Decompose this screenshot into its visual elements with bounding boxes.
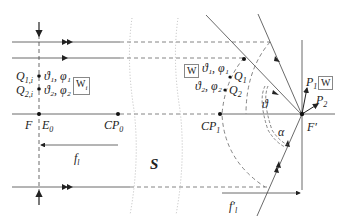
angles-2-label: ϑ₂, φ₂ — [44, 84, 71, 96]
wavefront-box-right: W — [184, 64, 199, 78]
focal-point-fprime-label: F′ — [307, 121, 317, 133]
angles-2-right-label: ϑ₂, φ₂ — [195, 80, 222, 92]
point-p1-label: P1 — [306, 76, 317, 91]
point-p2-label: P2 — [316, 94, 327, 109]
focal-length-right-label: f′l — [229, 200, 237, 215]
diagram-lines — [0, 0, 348, 224]
entrance-e0-label: E0 — [42, 119, 53, 134]
theta-angle-label: ϑ — [262, 98, 268, 110]
cp1-label: CP1 — [201, 120, 220, 135]
angles-1-right-label: ϑ₁, φ₁ — [202, 62, 229, 74]
point-q2-label: Q2 — [229, 84, 242, 99]
alpha-angle-label: α — [278, 126, 284, 138]
wavefront-box-left: Wi — [73, 77, 90, 95]
focal-length-left-label: fl — [74, 152, 80, 167]
optics-diagram: Q1,i Q2,i ϑ₁, φ₁ ϑ₂, φ₂ Wi F E0 CP0 fl S… — [0, 0, 348, 224]
point-q2i-label: Q2,i — [16, 84, 33, 99]
focal-point-f-label: F — [25, 119, 32, 131]
angles-1-label: ϑ₁, φ₁ — [44, 70, 71, 82]
wavefront-box-out: W — [318, 76, 333, 90]
system-s-label: S — [150, 157, 158, 172]
cp0-label: CP0 — [104, 119, 123, 134]
